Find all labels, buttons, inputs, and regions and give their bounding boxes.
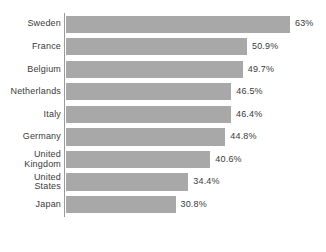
bar-value-label: 40.6% [215,148,241,171]
bar-fill [66,61,243,78]
bar-category-label: Sweden [0,13,61,36]
bar-fill [66,106,231,123]
bar-track [66,196,176,213]
bar-value-label: 46.4% [236,103,262,126]
bar-category-label: Germany [0,126,61,149]
bar-track [66,38,247,55]
bar-category-label: Italy [0,103,61,126]
bar-track [66,151,210,168]
bar-category-label: United States [0,171,61,194]
bar-chart: Sweden63%France50.9%Belgium49.7%Netherla… [0,0,326,252]
bar-category-label: United Kingdom [0,148,61,171]
bar-value-label: 46.5% [236,81,262,104]
bar-track [66,128,225,145]
bar-value-label: 49.7% [248,58,274,81]
bar-category-label: France [0,36,61,59]
bar-fill [66,128,225,145]
bar-track [66,106,231,123]
bar-row: France50.9% [0,36,326,59]
bar-value-label: 34.4% [193,171,219,194]
bar-row: Belgium49.7% [0,58,326,81]
bar-category-label: Japan [0,193,61,216]
bar-row: Sweden63% [0,13,326,36]
plot-area: Sweden63%France50.9%Belgium49.7%Netherla… [0,13,326,217]
bar-fill [66,173,188,190]
bar-value-label: 50.9% [252,36,278,59]
bar-category-label: Belgium [0,58,61,81]
bar-value-label: 30.8% [181,193,207,216]
bar-row: United States34.4% [0,171,326,194]
bar-fill [66,151,210,168]
bar-category-label: Netherlands [0,81,61,104]
bar-track [66,173,188,190]
bar-value-label: 44.8% [230,126,256,149]
bar-track [66,61,243,78]
bar-fill [66,16,290,33]
bar-row: Germany44.8% [0,126,326,149]
bar-value-label: 63% [295,13,314,36]
bar-track [66,83,231,100]
bar-row: Netherlands46.5% [0,81,326,104]
bar-fill [66,196,176,213]
bar-row: Italy46.4% [0,103,326,126]
bar-fill [66,83,231,100]
bar-row: Japan30.8% [0,193,326,216]
bar-track [66,16,290,33]
bar-row: United Kingdom40.6% [0,148,326,171]
bar-fill [66,38,247,55]
